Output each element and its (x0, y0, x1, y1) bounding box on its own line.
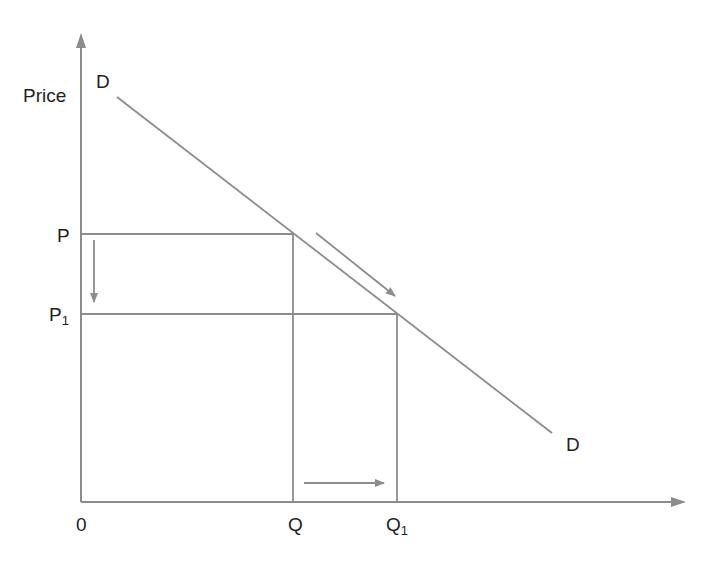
quantity-q1-main: Q (386, 514, 401, 535)
quantity-q1-subscript: 1 (401, 523, 408, 538)
x-axis-arrowhead-icon (671, 497, 686, 507)
along-curve-arrow-icon (316, 233, 395, 296)
price-p1-label: P1 (49, 305, 69, 324)
quantity-q-label: Q (288, 515, 303, 534)
y-axis-arrowhead-icon (76, 33, 86, 48)
y-axis-label: Price (23, 86, 66, 105)
price-p-label: P (57, 226, 70, 245)
price-p1-subscript: 1 (62, 313, 69, 328)
origin-label: 0 (76, 515, 87, 534)
quantity-q1-label: Q1 (386, 515, 408, 534)
demand-label-bottom: D (566, 435, 580, 454)
demand-curve-line (117, 97, 552, 433)
price-p1-main: P (49, 304, 62, 325)
demand-label-top: D (96, 72, 110, 91)
